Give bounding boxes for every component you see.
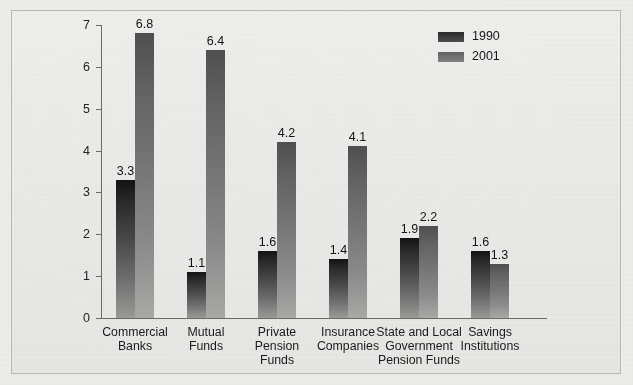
legend-label-2001: 2001	[472, 50, 500, 63]
y-axis-tick-label: 3	[68, 186, 90, 199]
y-axis-tick-label: 7	[68, 19, 90, 32]
legend-item-1990: 1990	[438, 28, 500, 45]
y-axis-tick	[96, 318, 101, 319]
bar-value-label: 1.6	[253, 236, 283, 249]
bar-value-label: 1.9	[395, 223, 425, 236]
legend-swatch-icon-2001	[438, 52, 464, 62]
x-axis-category-label: Savings Institutions	[436, 325, 544, 353]
bar-value-label: 1.6	[466, 236, 496, 249]
legend-swatch-icon-1990	[438, 32, 464, 42]
bar-2001-5	[490, 264, 509, 318]
bar-1990-1	[187, 272, 206, 318]
bar-value-label: 1.1	[182, 257, 212, 270]
y-axis-tick	[96, 234, 101, 235]
bar-value-label: 4.1	[343, 131, 373, 144]
bar-1990-3	[329, 259, 348, 318]
bar-value-label: 6.4	[201, 35, 231, 48]
bar-2001-2	[277, 142, 296, 318]
bar-value-label: 4.2	[272, 127, 302, 140]
bar-value-label: 2.2	[414, 211, 444, 224]
bar-value-label: 1.4	[324, 244, 354, 257]
y-axis-line	[101, 25, 102, 319]
chart-figure: 01234567 3.31.11.61.41.91.66.86.44.24.12…	[0, 0, 633, 385]
y-axis-tick	[96, 109, 101, 110]
bar-1990-2	[258, 251, 277, 318]
y-axis-tick-label: 5	[68, 103, 90, 116]
bar-1990-0	[116, 180, 135, 318]
bar-value-label: 3.3	[111, 165, 141, 178]
y-axis-tick-label: 6	[68, 61, 90, 74]
y-axis-tick	[96, 192, 101, 193]
y-axis-tick-label: 0	[68, 312, 90, 325]
chart-legend: 1990 2001	[438, 28, 500, 68]
bar-2001-4	[419, 226, 438, 318]
bar-2001-3	[348, 146, 367, 318]
bar-value-label: 6.8	[130, 18, 160, 31]
x-axis-line	[101, 318, 547, 319]
y-axis-tick-label: 2	[68, 228, 90, 241]
legend-item-2001: 2001	[438, 48, 500, 65]
bar-1990-4	[400, 238, 419, 318]
y-axis-tick-label: 1	[68, 270, 90, 283]
bar-value-label: 1.3	[485, 249, 515, 262]
y-axis-tick	[96, 67, 101, 68]
plot-area: 01234567 3.31.11.61.41.91.66.86.44.24.12…	[0, 0, 633, 385]
legend-label-1990: 1990	[472, 30, 500, 43]
y-axis-tick	[96, 151, 101, 152]
y-axis-tick-label: 4	[68, 145, 90, 158]
y-axis-tick	[96, 25, 101, 26]
y-axis-tick	[96, 276, 101, 277]
bar-2001-1	[206, 50, 225, 318]
